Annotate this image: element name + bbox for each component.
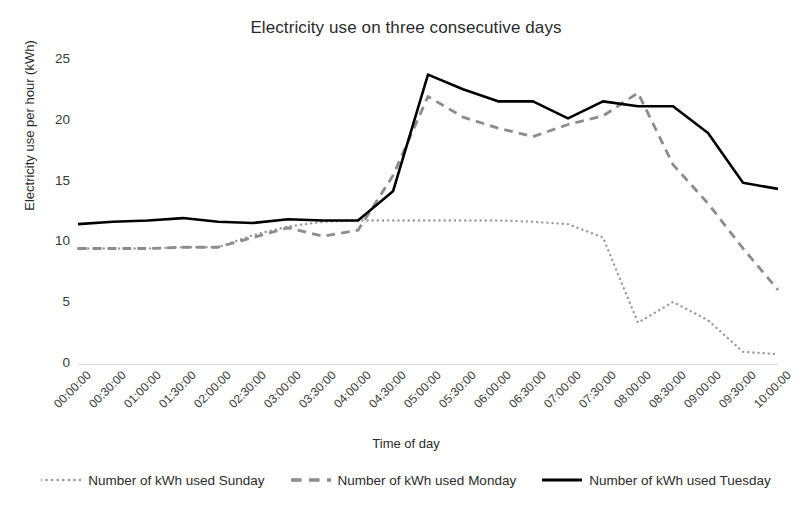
legend-item-0[interactable]: Number of kWh used Sunday [41,473,264,488]
y-axis-tick-20: 20 [24,112,70,127]
legend-label-1: Number of kWh used Monday [338,473,517,488]
y-axis-tick-15: 15 [24,173,70,188]
legend-swatch-1 [291,475,331,485]
y-axis-tick-25: 25 [24,51,70,66]
series-lines [78,60,778,364]
series-line-0 [78,221,778,355]
legend-label-2: Number of kWh used Tuesday [589,473,771,488]
legend-label-0: Number of kWh used Sunday [88,473,264,488]
x-axis-line [78,364,778,365]
y-axis-tick-0: 0 [24,355,70,370]
x-axis-title: Time of day [0,436,812,451]
y-axis-tick-labels: 0510152025 [22,0,70,508]
legend-item-1[interactable]: Number of kWh used Monday [291,473,517,488]
chart-legend: Number of kWh used SundayNumber of kWh u… [0,466,812,494]
plot-area [78,60,778,364]
y-axis-tick-10: 10 [24,233,70,248]
chart-container: Electricity use on three consecutive day… [0,0,812,508]
y-axis-tick-5: 5 [24,294,70,309]
legend-item-2[interactable]: Number of kWh used Tuesday [542,473,771,488]
legend-swatch-0 [41,475,81,485]
legend-swatch-2 [542,475,582,485]
series-line-1 [78,93,778,290]
chart-title: Electricity use on three consecutive day… [0,18,812,38]
